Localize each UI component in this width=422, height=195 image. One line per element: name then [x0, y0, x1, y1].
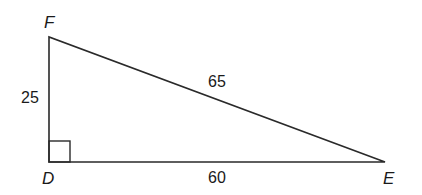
triangle-fde — [49, 37, 385, 162]
vertex-label-f: F — [44, 13, 56, 32]
vertex-label-d: D — [42, 169, 54, 188]
right-angle-marker — [49, 141, 70, 162]
vertex-label-e: E — [383, 169, 395, 188]
side-label-fe: 65 — [208, 73, 226, 90]
right-triangle-diagram: F D E 25 60 65 — [0, 0, 422, 195]
side-label-de: 60 — [208, 169, 226, 186]
side-label-fd: 25 — [21, 89, 39, 106]
